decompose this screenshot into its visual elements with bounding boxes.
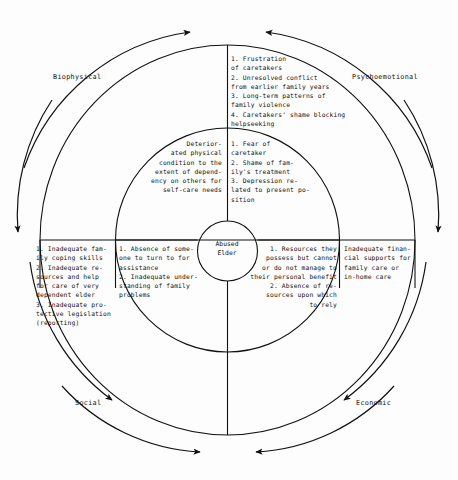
quadrant-label-economic: Economic — [356, 399, 391, 407]
ring-text-outer-social: 1. Inadequate fam- ily coping skills 2. … — [36, 244, 116, 328]
quadrant-label-psychoemotional: Psychoemotional — [352, 73, 418, 81]
ring-text-inner-biophysical: Deterior- ated physical condition to the… — [118, 139, 222, 195]
ring-text-outer-economic: Inadequate finan- cial supports for fami… — [344, 244, 418, 281]
ring-text-inner-psychoemotional: 1. Fear of caretaker 2. Shame of fam- il… — [231, 139, 327, 204]
arrow-right-down — [404, 100, 439, 232]
arrow-bottom-right — [256, 386, 394, 452]
ring-text-inner-economic: 1. Resources they possess but cannot or … — [243, 244, 337, 309]
quadrant-label-biophysical: Biophysical — [53, 73, 101, 81]
quadrant-label-social: Social — [75, 399, 101, 407]
ring-text-outer-psychoemotional: 1. Frustration of caretakers 2. Unresolv… — [231, 54, 381, 128]
core-label-line1: Abused — [197, 240, 257, 249]
arrow-bottom-right-in — [344, 262, 426, 400]
diagram-canvas: 1. Frustration of caretakers 2. Unresolv… — [0, 0, 458, 480]
arrow-bottom-left — [62, 386, 200, 452]
arrow-left-down — [17, 100, 52, 232]
core-label: Abused Elder — [197, 240, 257, 258]
core-label-line2: Elder — [197, 249, 257, 258]
